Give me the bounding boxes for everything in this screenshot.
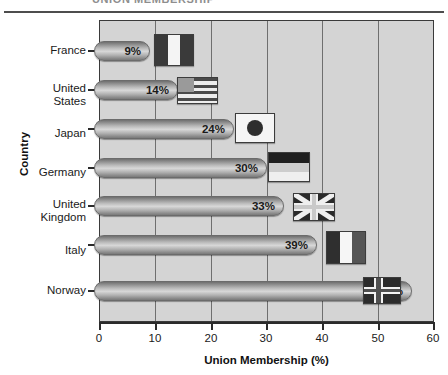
bar-italy[interactable]: 39% [94, 235, 317, 255]
bar-value-germany: 30% [235, 162, 258, 174]
y-axis-labels: France United States Japan Germany Unite… [26, 20, 86, 322]
bar-value-japan: 24% [202, 123, 225, 135]
france-flag-icon [154, 34, 194, 66]
union-membership-chart-figure: UNION MEMBERSHIP Country France United S… [0, 0, 448, 375]
x-tick-30 [266, 322, 268, 330]
norway-flag-icon [363, 277, 401, 304]
bar-france[interactable]: 9% [94, 41, 150, 61]
bar-value-france: 9% [124, 45, 141, 57]
united-kingdom-flag-icon [293, 193, 335, 221]
y-label-norway: Norway [26, 284, 86, 297]
germany-flag-icon [268, 152, 310, 182]
x-tick-label-10: 10 [140, 332, 170, 344]
bar-united-states[interactable]: 14% [94, 80, 178, 100]
x-tick-label-0: 0 [84, 332, 114, 344]
gridline-50 [378, 21, 379, 321]
x-axis-title: Union Membership (%) [99, 354, 434, 366]
x-tick-label-20: 20 [196, 332, 226, 344]
x-tick-label-30: 30 [251, 332, 281, 344]
plot-area: 9% 14% 24% 30% 33% 39% 56% [99, 20, 434, 322]
bar-value-united-kingdom: 33% [252, 200, 275, 212]
x-tick-label-50: 50 [363, 332, 393, 344]
x-tick-40 [322, 322, 324, 330]
y-label-united-states: United States [26, 82, 86, 108]
x-tick-0 [99, 322, 101, 330]
x-tick-label-60: 60 [418, 332, 448, 344]
x-tick-label-40: 40 [307, 332, 337, 344]
bar-germany[interactable]: 30% [94, 158, 267, 178]
bar-value-united-states: 14% [146, 84, 169, 96]
y-label-italy: Italy [26, 244, 86, 257]
x-tick-20 [211, 322, 213, 330]
cut-off-title-region: UNION MEMBERSHIP [0, 0, 448, 10]
x-tick-10 [155, 322, 157, 330]
bar-united-kingdom[interactable]: 33% [94, 196, 284, 216]
bar-japan[interactable]: 24% [94, 119, 234, 139]
gridline-40 [322, 21, 323, 321]
italy-flag-icon [326, 231, 366, 264]
x-tick-60 [433, 322, 435, 330]
y-label-france: France [26, 44, 86, 57]
bar-value-italy: 39% [285, 239, 308, 251]
page-title: UNION MEMBERSHIP [92, 0, 215, 5]
japan-flag-icon [235, 113, 275, 143]
y-label-japan: Japan [26, 127, 86, 140]
united-states-flag-icon [177, 77, 218, 104]
header-divider [4, 11, 444, 13]
x-tick-50 [378, 322, 380, 330]
y-label-germany: Germany [26, 166, 86, 179]
y-label-united-kingdom: United Kingdom [26, 198, 86, 224]
